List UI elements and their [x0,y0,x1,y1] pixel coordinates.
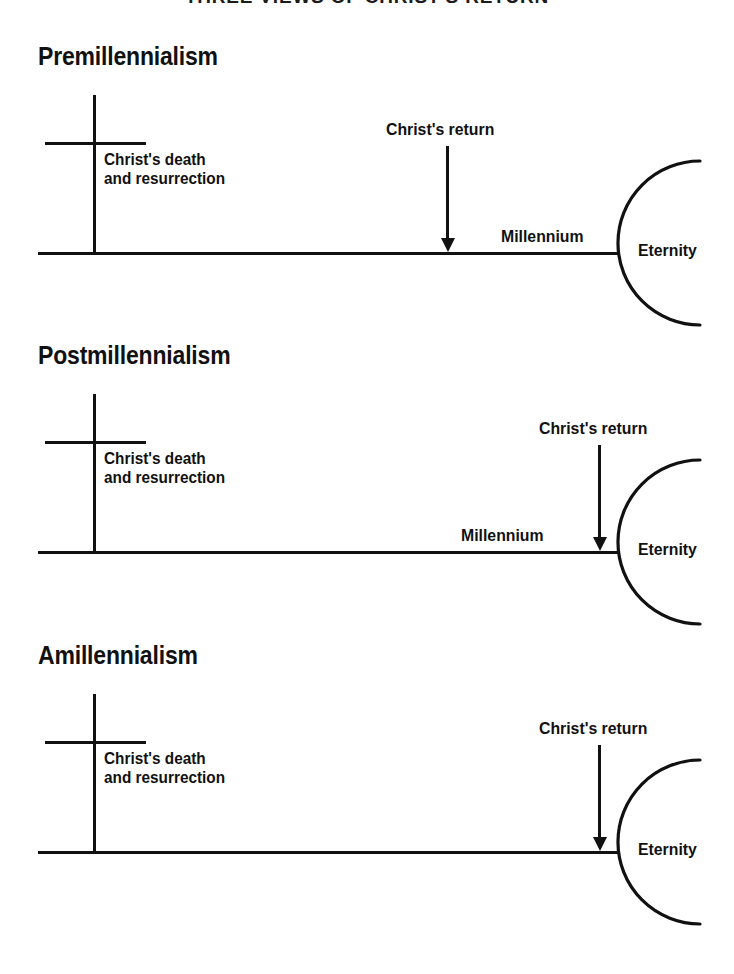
christs-return-arrow-head [593,537,607,551]
cross-caption-line-1: Christ's death [104,150,225,169]
eternity-label: Eternity [638,840,697,860]
cross-vertical-post [93,694,96,854]
figure-title: THREE VIEWS OF CHRIST'S RETURN [0,0,734,8]
christs-return-arrow-head [593,837,607,851]
christs-return-arrow-shaft [598,745,601,838]
christs-return-arrow-shaft [598,445,601,538]
christs-return-label: Christ's return [539,419,647,439]
timeline-axis [38,252,620,255]
christs-return-label: Christ's return [539,719,647,739]
christs-return-arrow-head [441,238,455,252]
cross-horizontal-bar [45,741,146,744]
eternity-label: Eternity [638,540,697,560]
cross-caption-line-2: and resurrection [104,768,225,787]
cross-horizontal-bar [45,441,146,444]
christs-return-label: Christ's return [386,120,494,140]
cross-caption-line-2: and resurrection [104,468,225,487]
cross-caption: Christ's death and resurrection [104,449,225,487]
eternity-label: Eternity [638,241,697,261]
view-heading-amillennialism: Amillennialism [38,641,198,670]
cross-caption-line-2: and resurrection [104,169,225,188]
diagram-page: THREE VIEWS OF CHRIST'S RETURN Premillen… [0,0,734,974]
millennium-label: Millennium [461,526,544,546]
cross-caption-line-1: Christ's death [104,449,225,468]
millennium-label: Millennium [501,227,584,247]
view-heading-postmillennialism: Postmillennialism [38,341,230,370]
timeline-axis [38,551,620,554]
cross-vertical-post [93,95,96,255]
timeline-axis [38,851,620,854]
cross-vertical-post [93,394,96,554]
christs-return-arrow-shaft [446,146,449,239]
view-heading-premillennialism: Premillennialism [38,42,218,71]
cross-caption: Christ's death and resurrection [104,150,225,188]
cross-horizontal-bar [45,142,146,145]
cross-caption-line-1: Christ's death [104,749,225,768]
cross-caption: Christ's death and resurrection [104,749,225,787]
